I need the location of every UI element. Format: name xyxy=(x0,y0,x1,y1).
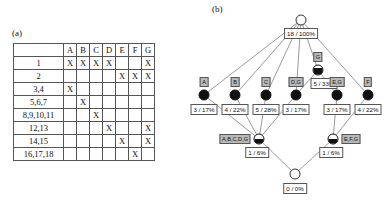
node-tag-g_mid: G xyxy=(313,52,322,62)
matrix-cell-marked: X xyxy=(90,109,103,122)
node-stat-leafF: 4 / 22% xyxy=(355,104,382,115)
matrix-cell-marked: X xyxy=(142,57,155,70)
matrix-row-header: 2 xyxy=(14,70,64,83)
matrix-cell-empty xyxy=(142,96,155,109)
matrix-row-header: 5,6,7 xyxy=(14,96,64,109)
matrix-cell-marked: X xyxy=(64,83,77,96)
matrix-cell-empty xyxy=(142,83,155,96)
matrix-row-header: 14,15 xyxy=(14,135,64,148)
panel-a: (a) ABCDEFG1XXXXX2XXX3,4X5,6,7X8,9,10,11… xyxy=(0,0,190,201)
graph-node-g_mid[interactable] xyxy=(313,65,324,76)
matrix-cell-empty xyxy=(77,83,90,96)
matrix-column-header: F xyxy=(129,44,142,57)
graph-edge xyxy=(333,95,368,139)
matrix-row: 8,9,10,11X xyxy=(14,109,155,122)
graph-edge xyxy=(259,95,266,139)
node-stat-leafB: 4 / 22% xyxy=(222,104,249,115)
matrix-header-row: ABCDEFG xyxy=(14,44,155,57)
matrix-cell-empty xyxy=(103,83,116,96)
matrix-cell-empty xyxy=(64,70,77,83)
graph-node-leafC[interactable] xyxy=(261,90,272,101)
matrix-column-header: A xyxy=(64,44,77,57)
matrix-row: 14,15XX xyxy=(14,135,155,148)
panel-b: (b) 18 / 100%G5 / 33%A3 / 17%B4 / 22%C5 … xyxy=(190,0,384,201)
node-tag-leafF: F xyxy=(364,77,372,87)
figure-container: (a) ABCDEFG1XXXXX2XXX3,4X5,6,7X8,9,10,11… xyxy=(0,0,384,201)
node-stat-bot: 0 / 0% xyxy=(283,183,307,194)
matrix-row: 16,17,18X xyxy=(14,148,155,161)
matrix-cell-empty xyxy=(90,122,103,135)
matrix-cell-empty xyxy=(142,148,155,161)
node-tag-leafA: A xyxy=(200,77,209,87)
matrix-cell-empty xyxy=(103,135,116,148)
graph-edge xyxy=(204,95,259,139)
matrix-row: 2XXX xyxy=(14,70,155,83)
matrix-cell-empty xyxy=(77,135,90,148)
matrix-cell-marked: X xyxy=(103,57,116,70)
matrix-row: 12,13XX xyxy=(14,122,155,135)
matrix-cell-empty xyxy=(77,70,90,83)
matrix-cell-empty xyxy=(129,96,142,109)
matrix-cell-empty xyxy=(116,83,129,96)
matrix-column-header: E xyxy=(116,44,129,57)
matrix-cell-empty xyxy=(103,70,116,83)
matrix-cell-empty xyxy=(90,148,103,161)
matrix-cell-empty xyxy=(77,148,90,161)
graph-edge xyxy=(259,95,296,139)
matrix-column-header: G xyxy=(142,44,155,57)
matrix-row-header: 8,9,10,11 xyxy=(14,109,64,122)
matrix-table: ABCDEFG1XXXXX2XXX3,4X5,6,7X8,9,10,11X12,… xyxy=(13,43,155,161)
matrix-cell-empty xyxy=(77,122,90,135)
matrix-cell-empty xyxy=(116,122,129,135)
matrix-cell-empty xyxy=(116,57,129,70)
matrix-cell-marked: X xyxy=(142,122,155,135)
incidence-matrix: ABCDEFG1XXXXX2XXX3,4X5,6,7X8,9,10,11X12,… xyxy=(13,43,155,161)
matrix-cell-empty xyxy=(90,70,103,83)
matrix-cell-marked: X xyxy=(90,57,103,70)
graph-edge xyxy=(333,95,337,139)
node-stat-leafE: 3 / 17% xyxy=(324,104,351,115)
matrix-row-header: 3,4 xyxy=(14,83,64,96)
graph-node-root[interactable] xyxy=(296,15,307,26)
node-tag-leafC: C xyxy=(261,77,270,87)
matrix-cell-marked: X xyxy=(142,135,155,148)
matrix-cell-empty xyxy=(64,122,77,135)
matrix-column-header: D xyxy=(103,44,116,57)
matrix-cell-empty xyxy=(129,122,142,135)
matrix-cell-empty xyxy=(129,57,142,70)
matrix-cell-marked: X xyxy=(64,57,77,70)
graph-node-midL[interactable] xyxy=(254,134,265,145)
node-stat-midL: 1 / 6% xyxy=(245,147,269,158)
matrix-cell-empty xyxy=(90,96,103,109)
node-stat-midR: 1 / 6% xyxy=(319,147,343,158)
matrix-column-header: B xyxy=(77,44,90,57)
matrix-cell-marked: X xyxy=(116,135,129,148)
matrix-column-header: C xyxy=(90,44,103,57)
matrix-cell-empty xyxy=(90,83,103,96)
matrix-cell-marked: X xyxy=(129,70,142,83)
matrix-cell-empty xyxy=(116,109,129,122)
matrix-cell-empty xyxy=(64,96,77,109)
graph-node-leafA[interactable] xyxy=(199,90,210,101)
graph-node-leafD[interactable] xyxy=(291,90,302,101)
matrix-cell-marked: X xyxy=(77,57,90,70)
graph-node-leafF[interactable] xyxy=(363,90,374,101)
matrix-cell-empty xyxy=(103,96,116,109)
graph-node-leafB[interactable] xyxy=(230,90,241,101)
graph-node-leafE[interactable] xyxy=(332,90,343,101)
matrix-cell-empty xyxy=(103,148,116,161)
node-tag-midR: E,F,G xyxy=(342,134,361,144)
matrix-cell-empty xyxy=(64,109,77,122)
node-stat-root: 18 / 100% xyxy=(284,28,318,39)
node-tag-leafD: D,G xyxy=(289,77,304,87)
matrix-row-header: 16,17,18 xyxy=(14,148,64,161)
matrix-cell-empty xyxy=(103,109,116,122)
matrix-row: 5,6,7X xyxy=(14,96,155,109)
matrix-cell-empty xyxy=(64,148,77,161)
graph-node-bot[interactable] xyxy=(290,169,301,180)
matrix-cell-empty xyxy=(142,109,155,122)
graph-node-midR[interactable] xyxy=(328,134,339,145)
matrix-row-header: 1 xyxy=(14,57,64,70)
matrix-cell-empty xyxy=(129,109,142,122)
matrix-row: 1XXXXX xyxy=(14,57,155,70)
